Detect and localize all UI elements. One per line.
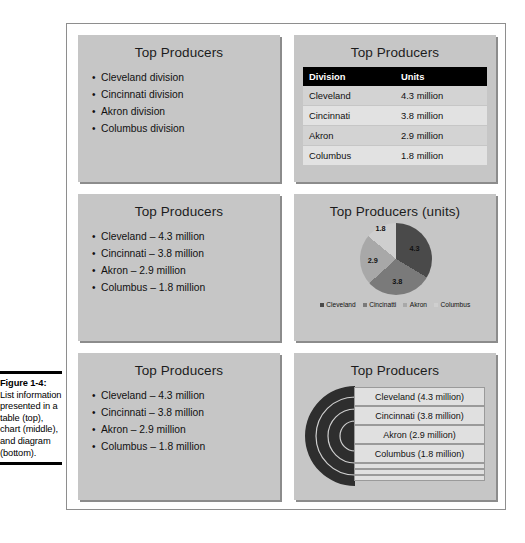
chart-legend: Cleveland Cincinatti Akron Columbus [294,301,496,308]
bullet-list: Cleveland – 4.3 million Cincinnati – 3.8… [78,228,280,296]
list-item: Cincinnati division [92,86,280,103]
slide-title: Top Producers [294,353,496,378]
list-item: Akron – 2.9 million [92,421,280,438]
list-item: Columbus division [92,120,280,137]
list-item: Cleveland division [92,69,280,86]
pie-slice-label-cincinatti: 3.8 [392,277,402,286]
column-header-division: Division [303,67,395,86]
cell-units: 4.3 million [395,86,487,106]
chart-title: Top Producers (units) [294,194,496,219]
bullet-list: Cleveland – 4.3 million Cincinnati – 3.8… [78,387,280,455]
bullet-list: Cleveland division Cincinnati division A… [78,69,280,137]
cell-division: Akron [303,126,395,146]
diagram-strip [354,475,485,481]
legend-item-cleveland: Cleveland [320,301,356,308]
list-item: Cleveland – 4.3 million [92,228,280,245]
diagram-box-cincinnati[interactable]: Cincinnati (3.8 million) [354,406,485,425]
cell-units: 2.9 million [395,126,487,146]
cell-units: 3.8 million [395,106,487,126]
slide-title: Top Producers [78,35,280,60]
table-row: Columbus 1.8 million [303,146,487,166]
table-wrapper: Division Units Cleveland 4.3 million Cin… [303,67,487,166]
diagram-box-cleveland[interactable]: Cleveland (4.3 million) [354,387,485,406]
slide-grid: Top Producers Cleveland division Cincinn… [78,35,496,500]
list-item: Cleveland – 4.3 million [92,387,280,404]
pie-slice-label-akron: 2.9 [368,256,378,265]
slide-list-values-middle[interactable]: Top Producers Cleveland – 4.3 million Ci… [78,194,280,341]
pie-slice-label-cleveland: 4.3 [409,244,419,253]
slide-title: Top Producers [78,353,280,378]
diagram-area: Cleveland (4.3 million) Cincinnati (3.8 … [294,380,496,492]
table-header-row: Division Units [303,67,487,86]
legend-label: Cincinatti [369,301,396,308]
legend-swatch-icon [434,303,438,307]
slide-list-values-bottom[interactable]: Top Producers Cleveland – 4.3 million Ci… [78,353,280,500]
caption-label: Figure 1-4: [0,378,46,388]
slide-list-plain[interactable]: Top Producers Cleveland division Cincinn… [78,35,280,182]
column-header-units: Units [395,67,487,86]
table-row: Akron 2.9 million [303,126,487,146]
legend-swatch-icon [320,303,324,307]
figure-caption: Figure 1-4: List information presented i… [0,371,68,516]
cell-division: Cincinnati [303,106,395,126]
cell-division: Columbus [303,146,395,166]
list-item: Cincinnati – 3.8 million [92,245,280,262]
slide-pie-chart[interactable]: Top Producers (units) 4.3 3.8 2.9 1.8 Cl… [294,194,496,341]
slide-title: Top Producers [294,35,496,60]
slide-table[interactable]: Top Producers Division Units Cleveland 4… [294,35,496,182]
list-item: Columbus – 1.8 million [92,279,280,296]
legend-label: Columbus [441,301,471,308]
cell-division: Cleveland [303,86,395,106]
diagram-box-akron[interactable]: Akron (2.9 million) [354,425,485,444]
legend-item-cincinatti: Cincinatti [363,301,397,308]
producers-table: Division Units Cleveland 4.3 million Cin… [303,67,487,166]
legend-label: Cleveland [326,301,355,308]
slide-title: Top Producers [78,194,280,219]
legend-label: Akron [410,301,427,308]
table-row: Cincinnati 3.8 million [303,106,487,126]
list-item: Cincinnati – 3.8 million [92,404,280,421]
cell-units: 1.8 million [395,146,487,166]
chart-area: 4.3 3.8 2.9 1.8 Cleveland Cincinatti [294,221,496,321]
legend-swatch-icon [363,303,367,307]
diagram-box-columbus[interactable]: Columbus (1.8 million) [354,444,485,463]
list-item: Akron division [92,103,280,120]
legend-item-akron: Akron [403,301,427,308]
caption-body: List information presented in a table (t… [0,390,61,458]
slide-diagram[interactable]: Top Producers Cleveland (4.3 million) Ci… [294,353,496,500]
pie-slice-label-columbus: 1.8 [375,224,385,233]
list-item: Columbus – 1.8 million [92,438,280,455]
legend-swatch-icon [403,303,407,307]
caption-rule-bottom [0,462,62,465]
figure-frame: Top Producers Cleveland division Cincinn… [66,23,506,510]
table-row: Cleveland 4.3 million [303,86,487,106]
legend-item-columbus: Columbus [434,301,470,308]
caption-text: Figure 1-4: List information presented i… [0,374,62,459]
list-item: Akron – 2.9 million [92,262,280,279]
